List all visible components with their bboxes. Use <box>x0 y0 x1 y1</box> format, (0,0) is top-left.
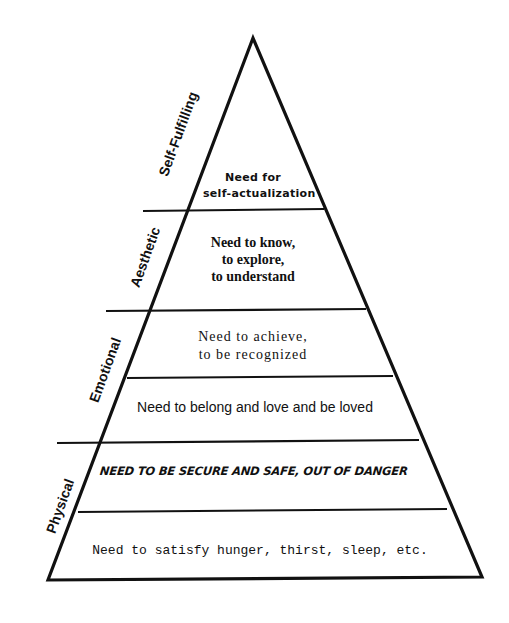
divider-aesthetic-emotional <box>106 309 366 311</box>
divider-safety-physiological <box>78 509 447 512</box>
tier-text-line: Need to know, <box>183 234 323 251</box>
tier-text-line: Need to achieve, <box>163 328 343 346</box>
divider-achieve-belong <box>127 376 393 378</box>
tier-cognitive: Need to know, to explore, to understand <box>183 234 323 285</box>
tier-text-line: to understand <box>183 268 323 285</box>
needs-pyramid-diagram: Need for self-actualization Need to know… <box>0 0 509 623</box>
divider-emotional-physical <box>57 440 419 443</box>
divider-self-aesthetic <box>143 209 324 211</box>
tier-text-line: NEED TO BE SECURE AND SAFE, OUT OF DANGE… <box>99 463 401 479</box>
tier-text-line: Need for <box>203 170 303 186</box>
tier-self-actualization: Need for self-actualization <box>203 170 303 202</box>
tier-safety: NEED TO BE SECURE AND SAFE, OUT OF DANGE… <box>99 463 401 479</box>
tier-text-line: to explore, <box>183 251 323 268</box>
tier-text-line: self-actualization <box>203 186 303 202</box>
pyramid-outline <box>0 0 509 623</box>
tier-text-line: Need to belong and love and be loved <box>120 398 390 416</box>
tier-physiological: Need to satisfy hunger, thirst, sleep, e… <box>60 543 460 559</box>
tier-text-line: to be recognized <box>163 346 343 364</box>
tier-belonging: Need to belong and love and be loved <box>120 398 390 416</box>
tier-text-line: Need to satisfy hunger, thirst, sleep, e… <box>60 543 460 559</box>
tier-esteem: Need to achieve, to be recognized <box>163 328 343 364</box>
